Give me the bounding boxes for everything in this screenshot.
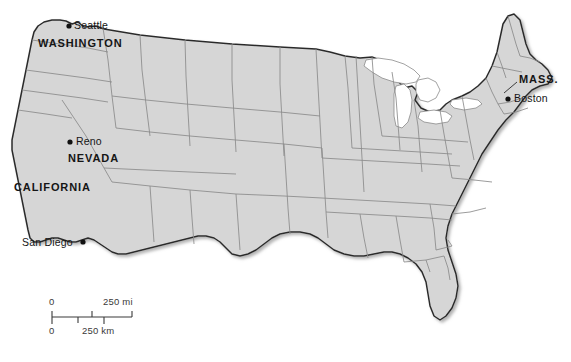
boston-dot: [505, 96, 510, 101]
landmass-group: [12, 14, 552, 320]
us-reference-map: WASHINGTON NEVADA CALIFORNIA MASS. Seatt…: [0, 0, 571, 362]
contiguous-us-landmass: [12, 14, 552, 320]
scale-label-km: 250 km: [82, 325, 114, 336]
reno-dot: [67, 139, 72, 144]
san-diego-dot: [80, 239, 85, 244]
scale-zero-miles: 0: [49, 296, 54, 307]
seattle-dot: [66, 23, 71, 28]
scale-label-miles: 250 mi: [103, 296, 133, 307]
scale-bar: 0 250 mi 0 250 km: [44, 296, 174, 340]
lake-huron: [416, 78, 440, 102]
scale-zero-km: 0: [49, 325, 54, 336]
